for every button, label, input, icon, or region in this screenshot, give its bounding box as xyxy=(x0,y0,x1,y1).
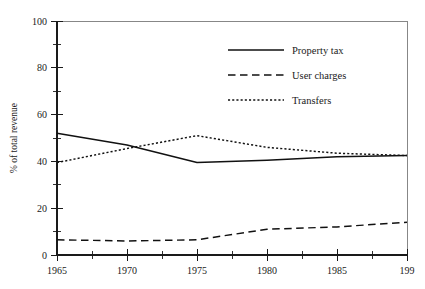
x-tick-label: 199 xyxy=(400,265,415,276)
x-tick-label: 1970 xyxy=(117,265,137,276)
y-axis-title: % of total revenue xyxy=(9,103,19,173)
x-tick-label: 1975 xyxy=(187,265,207,276)
plot-frame xyxy=(57,21,407,255)
y-tick-label: 80 xyxy=(37,62,47,73)
axes xyxy=(57,21,407,255)
legend-label-property-tax: Property tax xyxy=(292,45,344,56)
y-tick-label: 60 xyxy=(37,109,47,120)
legend-label-user-charges: User charges xyxy=(292,70,346,81)
y-axis-ticks: 020406080100 xyxy=(32,16,63,261)
series-line-user-charges xyxy=(57,222,407,241)
x-tick-label: 1965 xyxy=(47,265,67,276)
data-series-group xyxy=(57,133,407,241)
chart-legend: Property taxUser chargesTransfers xyxy=(228,45,346,106)
y-tick-label: 20 xyxy=(37,203,47,214)
series-line-property-tax xyxy=(57,133,407,162)
y-tick-label: 40 xyxy=(37,156,47,167)
legend-label-transfers: Transfers xyxy=(292,95,331,106)
line-chart: 020406080100 19651970197519801985199 % o… xyxy=(0,0,425,289)
x-tick-label: 1980 xyxy=(257,265,277,276)
x-tick-label: 1985 xyxy=(327,265,347,276)
chart-container: 020406080100 19651970197519801985199 % o… xyxy=(0,0,425,289)
series-line-transfers xyxy=(57,136,407,163)
x-axis-ticks: 19651970197519801985199 xyxy=(47,249,415,276)
y-tick-label: 0 xyxy=(42,250,47,261)
y-tick-label: 100 xyxy=(32,16,47,27)
